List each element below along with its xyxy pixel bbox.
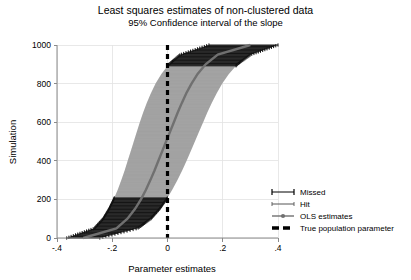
- x-tick-label: -.2: [107, 243, 117, 253]
- chart-container: Least squares estimates of non-clustered…: [0, 0, 411, 280]
- y-tick-labels: 02004006008001000: [32, 40, 51, 243]
- y-axis-title: Simulation: [7, 120, 18, 164]
- legend-item: Missed: [272, 188, 325, 197]
- simulation-whiskers: [67, 43, 278, 239]
- x-tick-label: .4: [274, 243, 281, 253]
- x-tick-label: 0: [165, 243, 170, 253]
- plot-svg: -.4-.20.2.4 02004006008001000 Parameter …: [0, 0, 411, 280]
- legend-label: Hit: [300, 200, 311, 209]
- legend-label: OLS estimates: [300, 212, 352, 221]
- x-tick-label: -.4: [52, 243, 62, 253]
- y-tick-label: 200: [37, 194, 51, 204]
- chart-legend: MissedHitOLS estimatesTrue population pa…: [272, 188, 394, 233]
- x-tick-label: .2: [219, 243, 226, 253]
- y-tick-label: 1000: [32, 40, 51, 50]
- legend-item: True population parameter: [272, 224, 394, 233]
- legend-item: OLS estimates: [272, 212, 352, 221]
- x-axis-title: Parameter estimates: [128, 263, 216, 274]
- legend-label: True population parameter: [300, 224, 394, 233]
- y-tick-label: 400: [37, 156, 51, 166]
- y-tick-label: 0: [46, 233, 51, 243]
- legend-label: Missed: [300, 188, 325, 197]
- y-tick-label: 600: [37, 117, 51, 127]
- x-tick-labels: -.4-.20.2.4: [52, 243, 282, 253]
- y-tick-label: 800: [37, 79, 51, 89]
